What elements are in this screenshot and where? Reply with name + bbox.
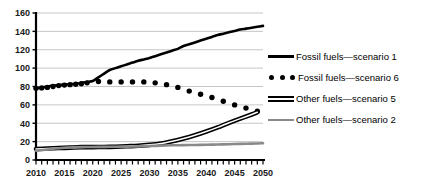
svg-text:100: 100 bbox=[15, 63, 30, 73]
svg-text:80: 80 bbox=[20, 82, 30, 92]
svg-text:2020: 2020 bbox=[83, 168, 103, 178]
legend-label: Fossil fuels—scenario 6 bbox=[298, 72, 399, 83]
legend-item-fossil-scenario-1: Fossil fuels—scenario 1 bbox=[268, 46, 430, 67]
svg-text:2015: 2015 bbox=[54, 168, 74, 178]
legend-item-fossil-scenario-6: Fossil fuels—scenario 6 bbox=[268, 67, 430, 88]
chart-legend: Fossil fuels—scenario 1 Fossil fuels—sce… bbox=[268, 46, 430, 130]
legend-item-other-scenario-5: Other fuels—scenario 5 bbox=[268, 88, 430, 109]
svg-text:0: 0 bbox=[25, 155, 30, 165]
data-series-group bbox=[33, 26, 263, 151]
svg-text:40: 40 bbox=[20, 119, 30, 129]
svg-text:120: 120 bbox=[15, 45, 30, 55]
svg-text:20: 20 bbox=[20, 137, 30, 147]
svg-text:2050: 2050 bbox=[253, 168, 273, 178]
svg-text:2025: 2025 bbox=[111, 168, 131, 178]
legend-item-other-scenario-2: Other fuels—scenario 2 bbox=[268, 109, 430, 130]
line-chart: 160140120100806040200 201020152020202520… bbox=[0, 0, 430, 187]
gray-line-swatch bbox=[268, 114, 294, 126]
x-axis-ticks bbox=[36, 160, 263, 165]
legend-label: Other fuels—scenario 2 bbox=[296, 114, 396, 125]
svg-text:2035: 2035 bbox=[168, 168, 188, 178]
y-axis-tick-labels: 160140120100806040200 bbox=[15, 8, 30, 165]
svg-text:2040: 2040 bbox=[196, 168, 216, 178]
svg-text:60: 60 bbox=[20, 100, 30, 110]
x-axis-tick-labels: 201020152020202520302035204020452050 bbox=[26, 168, 273, 178]
svg-text:140: 140 bbox=[15, 27, 30, 37]
svg-text:2045: 2045 bbox=[225, 168, 245, 178]
svg-text:2010: 2010 bbox=[26, 168, 46, 178]
svg-text:2030: 2030 bbox=[139, 168, 159, 178]
svg-text:160: 160 bbox=[15, 8, 30, 18]
legend-label: Other fuels—scenario 5 bbox=[296, 93, 396, 104]
double-line-swatch bbox=[268, 93, 294, 105]
legend-label: Fossil fuels—scenario 1 bbox=[296, 51, 397, 62]
solid-line-swatch bbox=[268, 51, 294, 63]
series-0 bbox=[36, 26, 263, 88]
dotted-line-swatch bbox=[268, 72, 296, 84]
